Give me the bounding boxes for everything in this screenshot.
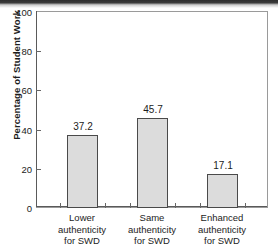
x-category-lower-line3: for SWD [43, 235, 121, 247]
y-tick-mark-80 [36, 51, 41, 52]
x-category-enhanced-line2: authenticity [183, 224, 261, 236]
bar-chart-screenshot: Percentage of Student Work 100 80 60 40 … [0, 0, 278, 251]
x-tick-mark-5 [200, 203, 201, 208]
x-category-same-line2: authenticity [113, 224, 191, 236]
x-category-same-line3: for SWD [113, 235, 191, 247]
y-tick-label-40: 40 [2, 126, 32, 136]
x-category-enhanced-line3: for SWD [183, 235, 261, 247]
x-tick-mark-4 [175, 203, 176, 208]
x-category-label-enhanced: Enhanced authenticity for SWD [183, 212, 261, 247]
x-tick-mark-1 [60, 203, 61, 208]
x-tick-mark-6 [245, 203, 246, 208]
y-tick-label-20: 20 [2, 165, 32, 175]
bar-value-label-same: 45.7 [129, 105, 177, 115]
bar-lower-authenticity[interactable] [67, 135, 98, 208]
x-category-label-same: Same authenticity for SWD [113, 212, 191, 247]
x-category-lower-line1: Lower [43, 212, 121, 224]
x-tick-mark-3 [130, 203, 131, 208]
bar-enhanced-authenticity[interactable] [207, 174, 238, 208]
y-tick-label-0: 0 [2, 204, 32, 214]
y-tick-label-80: 80 [2, 47, 32, 57]
x-tick-mark-2 [105, 203, 106, 208]
x-category-same-line1: Same [113, 212, 191, 224]
y-tick-mark-40 [36, 130, 41, 131]
y-tick-label-100: 100 [2, 8, 32, 18]
y-tick-label-60: 60 [2, 86, 32, 96]
scan-edge-fade-artifact [0, 5, 278, 8]
y-tick-mark-60 [36, 90, 41, 91]
y-tick-mark-20 [36, 169, 41, 170]
x-category-label-lower: Lower authenticity for SWD [43, 212, 121, 247]
bar-value-label-enhanced: 17.1 [199, 161, 247, 171]
bar-same-authenticity[interactable] [137, 118, 168, 208]
x-category-enhanced-line1: Enhanced [183, 212, 261, 224]
bar-value-label-lower: 37.2 [59, 122, 107, 132]
x-category-lower-line2: authenticity [43, 224, 121, 236]
